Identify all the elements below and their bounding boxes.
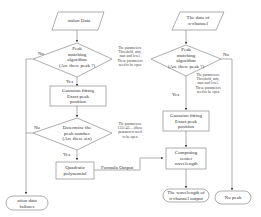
edge-label-yes: Yes <box>63 152 70 157</box>
edge-label-no: No <box>38 51 44 56</box>
box-line: position <box>163 124 209 130</box>
output-label: The wavelength of n-channel output <box>163 190 209 201</box>
gauss-label-left: Gaussian fitting Exact peak position <box>50 88 106 105</box>
gauss-label-right: Gaussian fitting Exact peak position <box>163 113 209 130</box>
decision-label-right-1: Peak matching algorithm (Are there peak … <box>159 47 213 69</box>
decision-label-left-1: Peak matching algorithm (Are there peak … <box>50 46 104 68</box>
edge-label-no: No <box>34 125 40 130</box>
decision-line: (Are there peak ?) <box>159 64 213 70</box>
note-line: need to be open <box>190 90 226 94</box>
box-line: failures <box>6 204 48 210</box>
input-label-right: The data of n-channel <box>174 15 222 26</box>
edge-label-yes: Yes <box>66 79 73 84</box>
decision-line: (Are there peak ?) <box>50 63 104 69</box>
parameter-note-left-1: The parameters: Threshold, min, max and … <box>111 46 149 67</box>
box-line: wavelength <box>166 161 206 167</box>
computing-label: Computing center wavelength <box>166 150 206 167</box>
note-line: to be open <box>111 135 149 139</box>
parameter-note-right-1: The parameters: Threshold, min, max and … <box>190 73 226 94</box>
edge-label-no: No <box>223 52 229 57</box>
no-peak-label: No peak <box>215 195 251 201</box>
quadratic-label: Quadratic polynomial <box>56 165 94 176</box>
note-line: need to be open <box>111 63 149 67</box>
edge-label-yes: Yes <box>172 92 179 97</box>
box-line: The wavelength of <box>163 190 209 196</box>
flowchart-canvas <box>0 0 261 217</box>
formula-output-label: Formula Output <box>101 165 133 170</box>
parameter-note-left-2: The parameters: 1551.43.....(these param… <box>111 122 149 139</box>
decision-label-left-2: Determine the peak number (Are there six… <box>50 125 104 142</box>
failure-label: ation data failures <box>6 198 48 209</box>
box-line: n-channel <box>174 21 222 27</box>
decision-line: (Are there six) <box>50 136 104 142</box>
box-line: polynomial <box>56 171 94 177</box>
box-line: n-channel output <box>163 196 209 202</box>
box-line: position <box>50 99 106 105</box>
input-label-left: stalon Data <box>56 18 102 24</box>
